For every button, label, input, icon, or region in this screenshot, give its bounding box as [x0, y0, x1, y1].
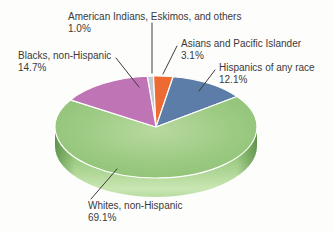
slice-label-text: Whites, non-Hispanic	[88, 200, 182, 212]
slice-label-blacks: Blacks, non-Hispanic 14.7%	[18, 50, 111, 74]
slice-label-text: Blacks, non-Hispanic	[18, 50, 111, 62]
leader-line-asians	[163, 46, 177, 74]
slice-label-pct: 3.1%	[181, 50, 301, 62]
slice-label-text: Hispanics of any race	[219, 62, 315, 74]
slice-label-text: Asians and Pacific Islander	[181, 38, 301, 50]
slice-label-pct: 69.1%	[88, 212, 182, 224]
slice-label-pct: 14.7%	[18, 62, 111, 74]
pie-chart-figure: American Indians, Eskimos, and others 1.…	[0, 0, 334, 233]
slice-label-hispanics: Hispanics of any race 12.1%	[219, 62, 315, 86]
slice-label-american-indians: American Indians, Eskimos, and others 1.…	[68, 11, 241, 35]
slice-label-pct: 1.0%	[68, 23, 241, 35]
slice-label-pct: 12.1%	[219, 74, 315, 86]
slice-label-whites: Whites, non-Hispanic 69.1%	[88, 200, 182, 224]
slice-label-text: American Indians, Eskimos, and others	[68, 11, 241, 23]
slice-label-asians: Asians and Pacific Islander 3.1%	[181, 38, 301, 62]
